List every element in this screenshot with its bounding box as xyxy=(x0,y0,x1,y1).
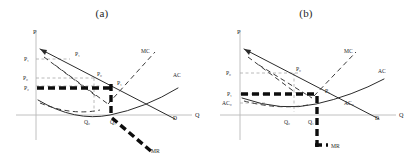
ac-shift-curve xyxy=(40,103,100,112)
panel-a-x-axis-label: Q xyxy=(195,111,200,118)
marginal-cost-curve xyxy=(314,52,356,96)
average-cost-curve xyxy=(38,88,178,117)
tick-q0: Q₀ xyxy=(284,119,290,125)
panel-b-y-axis-label: P xyxy=(237,28,241,35)
demand-arrow xyxy=(40,49,47,55)
marginal-revenue-old xyxy=(248,57,296,93)
tick-q1: Q₁ xyxy=(110,119,116,125)
curve-label-p1-right: P₁ xyxy=(117,80,122,86)
tick-p0: P₀ xyxy=(226,70,231,76)
curve-label-p1-right: P₁ xyxy=(325,88,330,94)
demand-arrow xyxy=(244,49,251,55)
panel-b-plot: P Q P₀ P₁ AC₀ P₀ P₁ AC₀ MC AC D MR Q₀ Q₁ xyxy=(204,0,408,162)
economics-figure: (a) xyxy=(0,0,408,162)
marginal-revenue-curve xyxy=(112,118,152,152)
curve-label-p1-upper: P₁ xyxy=(75,51,80,57)
panel-a: (a) xyxy=(0,0,204,162)
tick-p1: P₁ xyxy=(227,91,232,97)
curve-label-mr: MR xyxy=(331,143,340,149)
tick-p2: P₂ xyxy=(24,85,29,91)
curve-label-ac: AC xyxy=(378,68,386,74)
panel-b: (b) xyxy=(204,0,408,162)
tick-q0: Q₀ xyxy=(84,119,90,125)
demand-curve xyxy=(244,49,379,119)
panel-a-y-axis-label: P xyxy=(33,28,37,35)
panel-b-x-axis-label: Q xyxy=(399,111,404,118)
tick-ac0: AC₀ xyxy=(222,100,232,106)
curve-label-mc: MC xyxy=(141,48,150,54)
demand-curve xyxy=(40,49,175,119)
curve-label-ac0-right: AC₀ xyxy=(344,100,354,106)
curve-label-ac: AC xyxy=(173,72,181,78)
curve-label-mr: MR xyxy=(151,148,160,154)
curve-label-p0-mid: P₀ xyxy=(97,71,102,77)
tick-p0: P₀ xyxy=(23,75,28,81)
curve-label-p0-mid: P₀ xyxy=(296,66,301,72)
panel-a-plot: P Q P₁ P₀ P₂ P₁ P₀ P₁ MC AC D MR Q₀ Q₁ xyxy=(0,0,204,162)
tick-q1: Q₁ xyxy=(308,119,314,125)
curve-label-d: D xyxy=(173,115,177,121)
tick-p1: P₁ xyxy=(24,56,29,62)
curve-label-d: D xyxy=(375,115,379,121)
curve-label-mc: MC xyxy=(344,48,353,54)
